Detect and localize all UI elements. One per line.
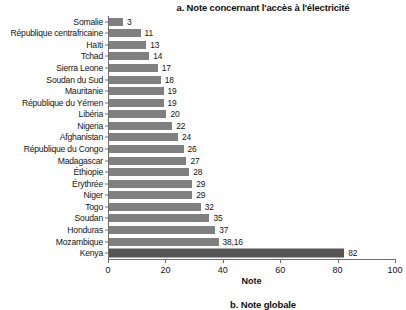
x-axis-tick-label: 80 xyxy=(333,265,343,275)
category-label: Éthiopie xyxy=(74,168,103,177)
bar xyxy=(109,180,192,188)
bar-value-label: 29 xyxy=(196,191,205,200)
bar-row: Sierra Leone17 xyxy=(108,62,395,74)
y-axis-tick xyxy=(105,56,108,57)
bar-row: Mozambique38,16 xyxy=(108,236,395,248)
bar xyxy=(109,168,189,176)
bar xyxy=(109,18,123,26)
bar-value-label: 26 xyxy=(188,145,197,154)
bar-value-label: 19 xyxy=(168,87,177,96)
bar-row: Honduras37 xyxy=(108,224,395,236)
bar-value-label: 20 xyxy=(170,110,179,119)
bar-value-label: 11 xyxy=(145,29,153,38)
x-axis-tick-label: 60 xyxy=(275,265,285,275)
y-axis-tick xyxy=(105,91,108,92)
y-axis-tick xyxy=(105,241,108,242)
category-label: Madagascar xyxy=(58,156,103,165)
y-axis-tick xyxy=(105,114,108,115)
x-axis-tick xyxy=(338,259,339,263)
x-axis-tick xyxy=(280,259,281,263)
bar xyxy=(109,76,161,84)
x-axis-tick-label: 20 xyxy=(160,265,170,275)
category-label: Mauritanie xyxy=(65,87,103,96)
x-axis-line xyxy=(108,259,395,260)
bar-row: Niger29 xyxy=(108,190,395,202)
y-axis-tick xyxy=(105,253,108,254)
category-label: Libéria xyxy=(79,110,103,119)
bar-row: République centrafricaine11 xyxy=(108,28,395,40)
y-axis-tick xyxy=(105,21,108,22)
bar-value-label: 24 xyxy=(182,133,191,142)
bar-row: Togo32 xyxy=(108,201,395,213)
bar-row: République du Yémen19 xyxy=(108,97,395,109)
y-axis-tick xyxy=(105,195,108,196)
bar-value-label: 22 xyxy=(176,121,185,130)
bar-row: Libéria20 xyxy=(108,109,395,121)
bar xyxy=(109,191,192,199)
y-axis-tick xyxy=(105,102,108,103)
bar-row: Nigeria22 xyxy=(108,120,395,132)
bar xyxy=(109,145,184,153)
x-axis-tick xyxy=(395,259,396,263)
bar-row: Haïti13 xyxy=(108,39,395,51)
bar-value-label: 19 xyxy=(168,98,177,107)
bar xyxy=(109,238,219,246)
category-label: Honduras xyxy=(67,226,103,235)
category-label: Somalie xyxy=(73,17,103,26)
y-axis-tick xyxy=(105,230,108,231)
category-label: Nigeria xyxy=(77,121,103,130)
bar xyxy=(109,122,172,130)
bar xyxy=(109,52,149,60)
bar xyxy=(109,41,146,49)
y-axis-tick xyxy=(105,137,108,138)
bar-row: Soudan35 xyxy=(108,213,395,225)
y-axis-tick xyxy=(105,183,108,184)
bar-value-label: 29 xyxy=(196,179,205,188)
category-label: Haïti xyxy=(86,40,103,49)
bar-value-label: 82 xyxy=(348,249,357,258)
bar xyxy=(109,157,186,165)
category-label: Sierra Leone xyxy=(56,64,103,73)
bar-row: Kenya82 xyxy=(108,247,395,259)
x-axis-tick-label: 0 xyxy=(105,265,110,275)
bar-row: Tchad14 xyxy=(108,51,395,63)
bar xyxy=(109,226,215,234)
category-label: Tchad xyxy=(81,52,103,61)
y-axis-tick xyxy=(105,172,108,173)
x-axis-tick-label: 40 xyxy=(218,265,228,275)
bar-row: Érythrée29 xyxy=(108,178,395,190)
bar xyxy=(109,110,166,118)
bar-value-label: 14 xyxy=(153,52,162,61)
y-axis-tick xyxy=(105,44,108,45)
bar-value-label: 27 xyxy=(190,156,199,165)
bar-value-label: 28 xyxy=(193,168,202,177)
bar-value-label: 13 xyxy=(150,40,159,49)
y-axis-tick xyxy=(105,125,108,126)
bar-value-label: 38,16 xyxy=(223,237,243,246)
category-label: Togo xyxy=(85,202,103,211)
y-axis-tick xyxy=(105,149,108,150)
bar-row: République du Congo26 xyxy=(108,143,395,155)
category-label: Soudan xyxy=(75,214,103,223)
category-label: Érythrée xyxy=(72,179,103,188)
bar xyxy=(109,249,344,258)
category-label: République du Congo xyxy=(24,145,103,154)
bar-value-label: 32 xyxy=(205,202,214,211)
figure: a. Note concernant l'accès à l'électrici… xyxy=(0,0,406,310)
y-axis-tick xyxy=(105,68,108,69)
bar-row: Somalie3 xyxy=(108,16,395,28)
category-label: Kenya xyxy=(80,249,103,258)
y-axis-tick xyxy=(105,79,108,80)
y-axis-tick xyxy=(105,160,108,161)
bar xyxy=(109,214,209,222)
x-axis-tick xyxy=(165,259,166,263)
category-label: Soudan du Sud xyxy=(46,75,103,84)
bar-value-label: 18 xyxy=(165,75,174,84)
bar-row: Éthiopie28 xyxy=(108,166,395,178)
bar-row: Mauritanie19 xyxy=(108,85,395,97)
category-label: Afghanistan xyxy=(60,133,103,142)
bar-row: Madagascar27 xyxy=(108,155,395,167)
y-axis-tick xyxy=(105,218,108,219)
y-axis-tick xyxy=(105,33,108,34)
x-axis-tick-label: 100 xyxy=(387,265,402,275)
